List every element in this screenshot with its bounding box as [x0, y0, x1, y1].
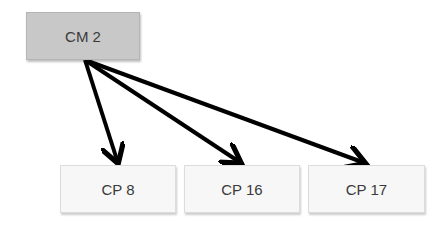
node-cp16: CP 16 — [184, 165, 300, 213]
edge-cm2-cp16 — [85, 60, 238, 161]
node-label: CP 17 — [346, 181, 387, 198]
node-label: CP 16 — [221, 181, 262, 198]
node-cp8: CP 8 — [60, 165, 176, 213]
edge-cm2-cp8 — [85, 60, 117, 160]
node-cp17: CP 17 — [308, 165, 425, 213]
node-cm2: CM 2 — [26, 12, 140, 60]
node-label: CM 2 — [65, 28, 101, 45]
node-label: CP 8 — [101, 181, 134, 198]
edge-cm2-cp17 — [85, 60, 362, 162]
